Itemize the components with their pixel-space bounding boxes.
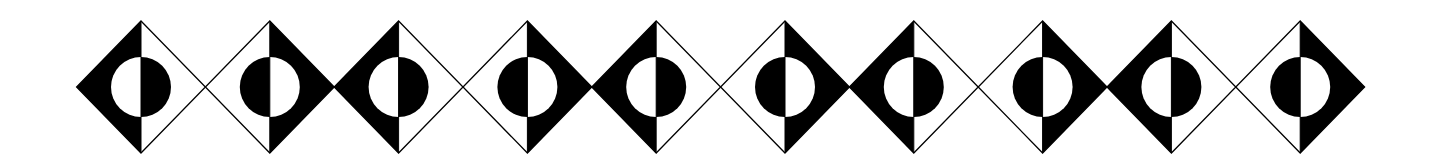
diamond-tile-7 <box>849 21 978 153</box>
diamond-tile-5 <box>592 21 721 153</box>
diamond-tile-3 <box>334 21 463 153</box>
diamond-tile-4 <box>463 21 592 153</box>
diamond-tile-1 <box>77 21 206 153</box>
diamond-tile-10 <box>1236 21 1365 153</box>
diamond-tile-6 <box>721 21 850 153</box>
diamond-tile-2 <box>205 21 334 153</box>
diamond-tile-9 <box>1107 21 1236 153</box>
diamond-tile-8 <box>978 21 1107 153</box>
diamond-frieze-pattern <box>0 0 1439 157</box>
